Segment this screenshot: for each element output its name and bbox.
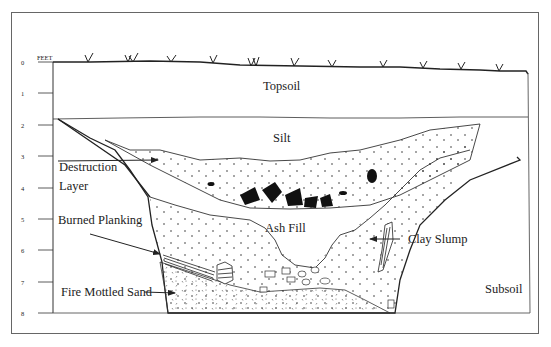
svg-text:3: 3 bbox=[21, 153, 24, 160]
svg-text:7: 7 bbox=[21, 279, 25, 286]
scale-ticks bbox=[38, 62, 53, 313]
svg-text:8: 8 bbox=[21, 310, 24, 317]
label-destruction-layer: Layer bbox=[59, 179, 89, 193]
svg-text:0: 0 bbox=[21, 59, 24, 66]
section-right-edge bbox=[528, 73, 530, 313]
ground-surface-line bbox=[53, 61, 528, 74]
stratigraphic-profile-figure: 0 1 2 3 4 5 6 7 8 FEET bbox=[0, 0, 551, 347]
scale-unit-label: FEET bbox=[37, 54, 53, 61]
label-fire-mottled-sand: Fire Mottled Sand bbox=[61, 285, 153, 299]
label-subsoil: Subsoil bbox=[485, 282, 523, 296]
grass-marks bbox=[85, 53, 503, 71]
label-topsoil: Topsoil bbox=[263, 79, 301, 93]
label-destruction: Destruction bbox=[59, 160, 118, 174]
topsoil-silt-boundary bbox=[53, 117, 528, 119]
svg-text:6: 6 bbox=[21, 247, 25, 254]
svg-text:2: 2 bbox=[21, 122, 24, 129]
svg-text:5: 5 bbox=[21, 216, 24, 223]
label-silt: Silt bbox=[273, 131, 291, 145]
label-ash-fill: Ash Fill bbox=[265, 221, 306, 235]
label-clay-slump: Clay Slump bbox=[408, 232, 467, 246]
svg-text:4: 4 bbox=[21, 185, 25, 192]
label-burned-planking: Burned Planking bbox=[58, 213, 143, 227]
svg-text:1: 1 bbox=[21, 90, 24, 97]
